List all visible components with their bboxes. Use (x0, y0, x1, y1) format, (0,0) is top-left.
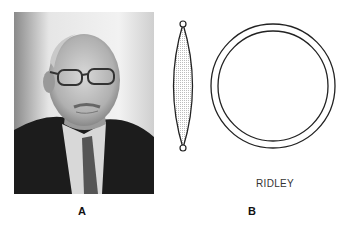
panel-label-a: A (78, 205, 86, 217)
lens-side-profile (174, 21, 193, 151)
lens-front-view-ring (211, 24, 335, 148)
ridley-caption: RIDLEY (250, 178, 300, 189)
lens-diagram (160, 0, 343, 170)
portrait-photo (14, 12, 154, 194)
panel-label-b: B (248, 205, 256, 217)
